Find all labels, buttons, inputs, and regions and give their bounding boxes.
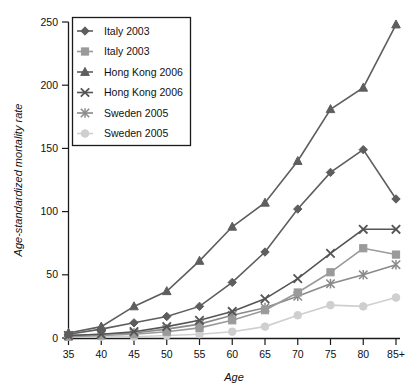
legend-label: Hong Kong 2006 <box>104 66 183 78</box>
data-point <box>392 20 401 28</box>
data-point <box>163 312 171 320</box>
data-point <box>326 105 335 113</box>
data-point <box>228 222 237 230</box>
data-point <box>392 195 400 203</box>
y-axis: 050100150200250 Age-standardized mortali… <box>12 16 69 344</box>
x-tick-label: 55 <box>194 348 206 360</box>
data-point <box>359 83 368 91</box>
data-point <box>261 307 268 314</box>
data-point <box>229 317 236 324</box>
legend-label: Sweden 2005 <box>104 127 168 139</box>
x-tick-label: 65 <box>259 348 271 360</box>
x-tick-label: 45 <box>128 348 140 360</box>
x-tick-label: 70 <box>292 348 304 360</box>
data-point <box>196 324 203 331</box>
y-tick-label: 50 <box>46 268 58 280</box>
data-point <box>359 303 367 311</box>
data-point <box>261 295 269 303</box>
data-point <box>326 249 334 257</box>
x-tick-label: 80 <box>357 348 369 360</box>
data-point <box>294 311 302 319</box>
data-point <box>360 245 367 252</box>
x-tick-label: 60 <box>226 348 238 360</box>
series-0 <box>64 145 400 338</box>
x-tick-label: 35 <box>63 348 75 360</box>
legend-label: Italy 2003 <box>104 25 150 37</box>
y-tick-label: 150 <box>40 142 58 154</box>
y-axis-ticks: 050100150200250 <box>40 16 68 344</box>
x-tick-label: 40 <box>95 348 107 360</box>
legend-label: Italy 2003 <box>104 45 150 57</box>
legend-label: Sweden 2005 <box>104 107 168 119</box>
y-axis-title: Age-standardized mortality rate <box>12 104 24 258</box>
legend-marker-square-icon <box>81 48 88 55</box>
x-tick-label: 85+ <box>387 348 405 360</box>
legend-label: Hong Kong 2006 <box>104 86 183 98</box>
x-tick-label: 75 <box>325 348 337 360</box>
y-tick-label: 250 <box>40 16 58 28</box>
data-point <box>392 251 399 258</box>
chart-canvas: 050100150200250 Age-standardized mortali… <box>0 0 409 388</box>
y-tick-label: 100 <box>40 205 58 217</box>
y-tick-label: 200 <box>40 79 58 91</box>
data-point <box>130 319 138 327</box>
data-point <box>261 323 269 331</box>
data-point <box>392 294 400 302</box>
x-axis-ticks: 3540455055606570758085+ <box>63 339 405 361</box>
data-point <box>327 301 335 309</box>
x-axis-title: Age <box>223 371 244 383</box>
data-point <box>294 289 301 296</box>
series-line <box>69 265 397 336</box>
y-tick-label: 0 <box>52 332 58 344</box>
x-tick-label: 50 <box>161 348 173 360</box>
data-point <box>228 328 236 336</box>
data-point <box>392 260 400 270</box>
x-axis: 3540455055606570758085+ Age <box>63 339 405 384</box>
data-point <box>97 322 106 330</box>
mortality-rate-line-chart: 050100150200250 Age-standardized mortali… <box>0 0 409 388</box>
data-point <box>327 269 334 276</box>
chart-legend: Italy 2003Italy 2003Hong Kong 2006Hong K… <box>73 18 191 146</box>
legend-marker-circle-icon <box>81 130 89 138</box>
data-point <box>294 274 302 282</box>
